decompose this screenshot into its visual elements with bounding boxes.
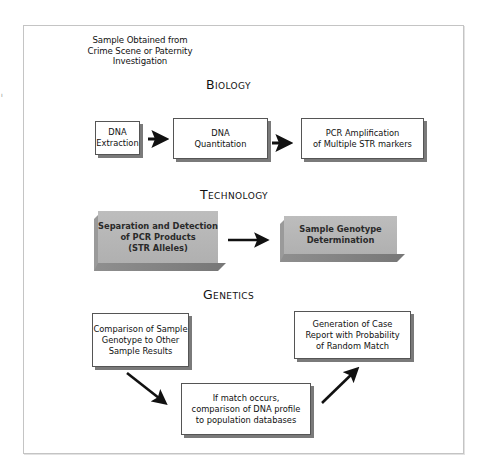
step-dna-quantitation: DNA Quantitation [173,118,268,159]
intro-text: Sample Obtained from Crime Scene or Pate… [78,35,202,67]
section-heading-biology: Biology [206,77,251,92]
step-case-report: Generation of Case Report with Probabili… [294,311,411,359]
step-line: Comparison of Sample [93,324,187,335]
step-line: Extraction [96,138,138,149]
step-line: Separation and Detection [98,221,218,232]
step-line: Sample Results [93,346,187,357]
step-line: Genotype to Other [93,335,187,346]
margin-mark: ı [1,91,3,98]
step-line: of PCR Products [98,232,218,243]
step-sample-comparison: Comparison of Sample Genotype to Other S… [92,313,189,367]
step-line: Report with Probability [305,330,399,341]
section-heading-genetics: Genetics [203,287,254,302]
step-line: of Random Match [305,341,399,352]
step-line: of Multiple STR markers [313,139,412,150]
intro-line: Crime Scene or Paternity [78,46,202,57]
step-line: Sample Genotype [299,224,382,235]
step-genotype-determination: Sample Genotype Determination [284,216,397,254]
step-line: comparison of DNA profile [192,404,301,415]
step-line: (STR Alleles) [98,243,218,254]
step-separation-detection: Separation and Detection of PCR Products… [98,211,218,263]
intro-line: Sample Obtained from [78,35,202,46]
step-line: PCR Amplification [313,128,412,139]
step-line: Quantitation [195,139,247,150]
section-heading-technology: Technology [200,187,268,202]
step-line: DNA [195,128,247,139]
step-line: to population databases [192,415,301,426]
step-population-comparison: If match occurs, comparison of DNA profi… [181,383,311,435]
step-pcr-amplification: PCR Amplification of Multiple STR marker… [301,118,424,159]
step-line: DNA [96,127,138,138]
step-line: Determination [299,235,382,246]
step-dna-extraction: DNA Extraction [95,121,140,155]
step-line: If match occurs, [192,393,301,404]
step-line: Generation of Case [305,319,399,330]
intro-line: Investigation [78,56,202,67]
